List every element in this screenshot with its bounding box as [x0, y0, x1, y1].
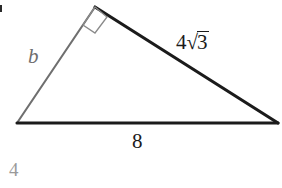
label-leg-b: b [28, 46, 39, 67]
geometry-figure: b 4√3 8 4 [0, 0, 282, 188]
radicand: 3 [197, 31, 209, 53]
label-corner-number: 4 [9, 160, 19, 179]
label-base: 8 [132, 131, 143, 152]
triangle-svg [0, 0, 282, 188]
radical-coefficient: 4 [176, 30, 187, 54]
radical-expression: 4√3 [176, 31, 209, 53]
label-hypotenuse: 4√3 [176, 31, 209, 53]
triangle-side-hypotenuse [95, 7, 278, 123]
